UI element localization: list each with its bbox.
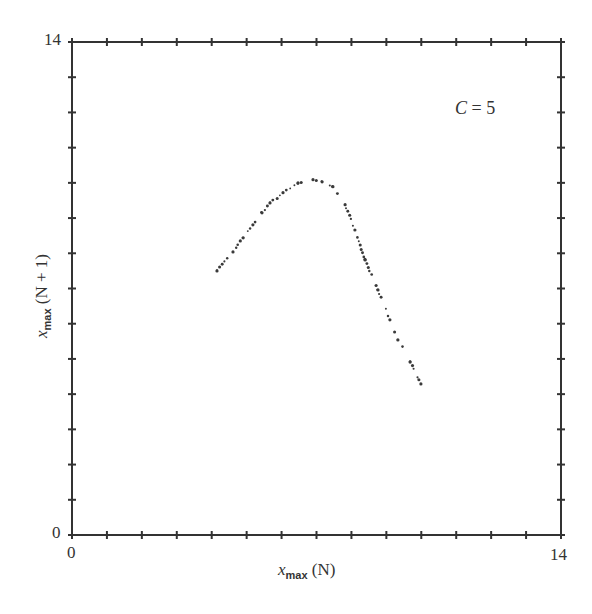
data-point [331,185,334,188]
data-point [370,273,373,276]
data-point [329,185,331,187]
data-point [350,218,352,220]
data-point [353,228,356,231]
data-point [367,266,370,269]
x-axis-subscript: max [286,569,308,581]
data-point [409,361,412,364]
data-points [215,178,422,385]
data-point [380,296,383,299]
data-point [345,207,347,209]
data-point [249,227,251,229]
data-point [300,181,303,184]
annotation-variable: C [455,98,467,118]
data-point [281,191,284,194]
data-point [251,223,254,226]
data-point [231,250,234,253]
parameter-annotation: C = 5 [455,98,495,119]
data-point [361,251,364,254]
x-axis-argument: (N) [308,560,336,579]
data-point [260,211,263,214]
data-point [236,243,239,246]
y-axis-variable: x [32,330,51,338]
data-point [315,179,318,182]
data-point [279,194,281,196]
data-point [268,201,271,204]
data-point [352,225,354,227]
data-point [296,181,299,184]
data-point [356,236,359,239]
data-point [413,368,415,370]
data-point [276,197,279,200]
x-tick-max: 14 [550,545,567,565]
data-point [411,364,414,367]
data-point [396,338,399,341]
data-point [375,284,378,287]
data-point [348,214,351,217]
data-point [358,240,360,242]
data-point [388,318,391,321]
data-point [419,382,422,385]
data-point [271,199,274,202]
annotation-value: = 5 [467,98,495,118]
y-tick-max: 14 [44,30,61,50]
data-point [242,236,245,239]
x-axis-variable: x [278,560,286,579]
data-point [364,258,367,261]
data-point [285,189,288,192]
y-axis-label: xmax (N + 1) [32,254,53,338]
data-point [416,376,418,378]
data-point [254,221,257,224]
data-point [376,288,379,291]
data-point [417,378,420,381]
data-point [360,248,363,251]
data-point [365,262,368,265]
y-tick-min: 0 [52,523,61,543]
data-point [289,188,291,190]
x-tick-min: 0 [67,543,76,563]
data-point [226,257,228,259]
data-point [239,239,242,242]
data-point [368,270,370,272]
data-point [387,315,390,318]
data-point [247,230,249,232]
data-point [378,293,380,295]
data-point [235,247,237,249]
y-axis-argument: (N + 1) [32,254,51,308]
return-map-chart [0,0,592,614]
data-point [346,210,349,213]
data-point [266,205,269,208]
data-point [321,180,324,183]
data-point [223,260,225,262]
data-point [362,256,365,259]
x-axis-label: xmax (N) [278,560,335,581]
data-point [221,263,224,266]
data-point [215,269,218,272]
data-point [393,330,396,333]
data-point [359,243,362,246]
data-point [311,178,314,181]
data-point [344,203,347,206]
data-point [401,345,404,348]
data-point [293,184,295,186]
data-point [264,209,266,211]
data-point [218,266,221,269]
data-point [336,192,339,195]
data-point [385,308,387,310]
y-axis-subscript: max [41,308,53,330]
